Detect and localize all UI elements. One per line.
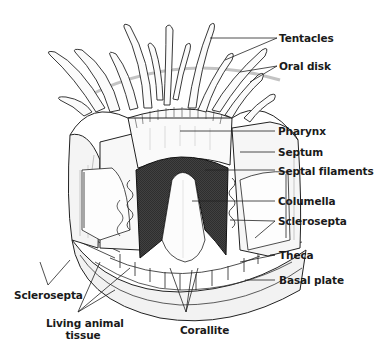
label-living-animal-tissue-line2: tissue <box>46 329 120 341</box>
label-basal-plate: Basal plate <box>279 274 344 286</box>
label-living-animal-tissue: Living animal tissue <box>46 317 120 341</box>
label-sclerosepta-left: Sclerosepta <box>14 289 83 301</box>
label-living-animal-tissue-line1: Living animal <box>46 317 120 329</box>
label-corallite: Corallite <box>180 324 229 336</box>
label-tentacles: Tentacles <box>279 32 334 44</box>
label-pharynx: Pharynx <box>278 125 326 137</box>
body-wall-right <box>232 122 301 256</box>
label-septum: Septum <box>278 146 323 158</box>
label-columella: Columella <box>278 195 335 207</box>
label-theca: Theca <box>279 249 314 261</box>
label-sclerosepta-right: Sclerosepta <box>278 215 347 227</box>
label-oral-disk: Oral disk <box>279 60 331 72</box>
label-septal-filaments: Septal filaments <box>278 165 374 177</box>
